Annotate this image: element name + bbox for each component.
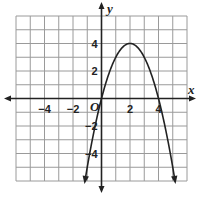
origin-label: O [90,99,100,114]
x-axis-label: x [187,82,195,97]
axes [4,2,196,193]
y-tick-label: −4 [85,148,98,160]
y-axis-label: y [105,1,113,16]
parabola-graph: −4−22442−2−4 x y O [0,0,199,197]
x-tick-label: −4 [38,103,51,115]
y-tick-label: 2 [91,65,97,77]
x-tick-label: 2 [127,103,133,115]
y-tick-label: 4 [91,38,98,50]
x-tick-label: −2 [67,103,80,115]
